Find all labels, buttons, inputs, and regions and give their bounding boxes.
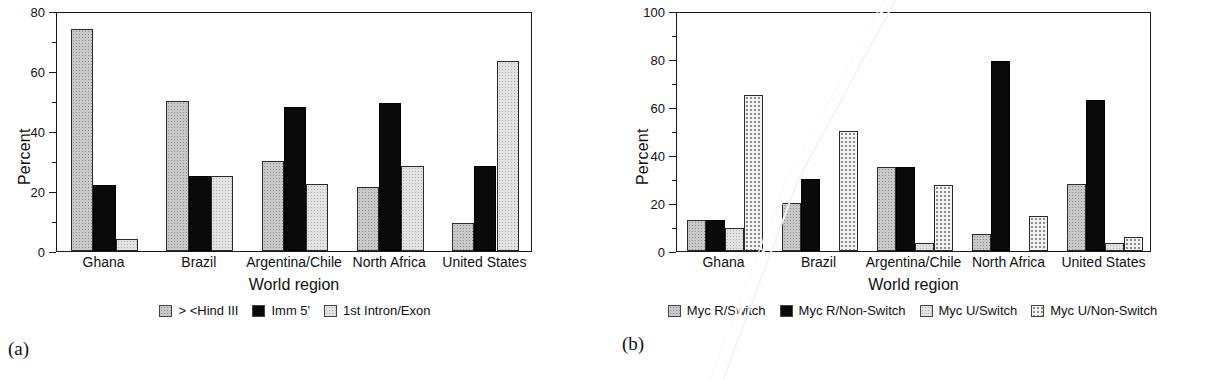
bar (211, 176, 233, 251)
legend-item: Myc R/Non-Switch (780, 303, 906, 318)
bar (972, 234, 991, 251)
x-axis-tick-label: Argentina/Chile (246, 254, 342, 270)
y-axis-tick-label: 40 (610, 149, 665, 164)
y-axis-tick-label: 0 (0, 245, 45, 260)
bar (166, 101, 188, 251)
legend-swatch-icon (252, 305, 265, 317)
legend-swatch-icon (780, 305, 793, 317)
bar (497, 61, 519, 252)
y-axis-tick-label: 60 (0, 65, 45, 80)
bar (725, 228, 744, 251)
bar (934, 185, 953, 251)
legend-item: Myc U/Switch (920, 303, 1018, 318)
legend-swatch-icon (920, 305, 933, 317)
bar (1105, 243, 1124, 251)
bar (93, 185, 115, 251)
plot-area-b (676, 12, 1151, 252)
y-axis-tick-label: 40 (0, 125, 45, 140)
y-axis-minor-tick (672, 84, 676, 85)
bar (452, 223, 474, 252)
y-axis-minor-tick (52, 222, 56, 223)
legend-swatch-icon (324, 305, 337, 317)
x-axis-title: World region (56, 276, 532, 294)
bar (284, 107, 306, 251)
y-axis-minor-tick (672, 132, 676, 133)
y-axis-minor-tick (672, 36, 676, 37)
legend-item: Myc R/Switch (668, 303, 766, 318)
bar (782, 203, 801, 251)
bar (474, 166, 496, 252)
bar (401, 166, 423, 252)
legend-b: Myc R/SwitchMyc R/Non-SwitchMyc U/Switch… (614, 303, 1211, 318)
plot-area-a (56, 12, 532, 252)
legend-label: > <Hind III (178, 303, 238, 318)
x-axis-tick-label: Ghana (83, 254, 125, 270)
x-axis-tick-label: Brazil (181, 254, 216, 270)
legend-a: > <Hind IIIImm 5'1st Intron/Exon (60, 303, 530, 318)
legend-label: Myc R/Non-Switch (799, 303, 906, 318)
y-axis-major-tick (669, 252, 676, 253)
y-axis-major-tick (49, 252, 56, 253)
x-axis-tick-label: North Africa (972, 254, 1045, 270)
legend-label: 1st Intron/Exon (343, 303, 430, 318)
x-axis-tick-label: United States (442, 254, 526, 270)
y-axis-tick-label: 20 (610, 197, 665, 212)
y-axis-minor-tick (672, 180, 676, 181)
y-axis-tick-label: 80 (0, 5, 45, 20)
panel-b: Percent 020406080100 GhanaBrazilArgentin… (610, 0, 1215, 365)
bar (357, 187, 379, 252)
y-axis-major-tick (49, 72, 56, 73)
bar (839, 131, 858, 251)
y-axis-tick-label: 0 (610, 245, 665, 260)
bar (687, 220, 706, 251)
y-axis-minor-tick (52, 42, 56, 43)
legend-label: Myc U/Switch (939, 303, 1018, 318)
legend-label: Myc R/Switch (687, 303, 766, 318)
bar (1067, 184, 1086, 251)
legend-item: Myc U/Non-Switch (1031, 303, 1157, 318)
panel-a: Percent 020406080 GhanaBrazilArgentina/C… (0, 0, 600, 365)
legend-swatch-icon (668, 305, 681, 317)
bar (1124, 237, 1143, 251)
y-axis-tick-label: 20 (0, 185, 45, 200)
y-axis-major-tick (669, 12, 676, 13)
y-axis-major-tick (669, 108, 676, 109)
x-axis-tick-label: United States (1061, 254, 1145, 270)
bar (116, 239, 138, 251)
y-axis-minor-tick (672, 228, 676, 229)
x-axis-title: World region (676, 276, 1151, 294)
legend-swatch-icon (1031, 305, 1044, 317)
y-axis-tick-label: 100 (610, 5, 665, 20)
x-axis-tick-label: Ghana (702, 254, 744, 270)
bar (896, 167, 915, 251)
bar (991, 61, 1010, 251)
bars-layer-b (677, 13, 1150, 251)
y-axis-major-tick (669, 60, 676, 61)
bars-layer-a (57, 13, 531, 251)
bar (306, 184, 328, 252)
y-axis-major-tick (669, 204, 676, 205)
bar (801, 179, 820, 251)
legend-item: > <Hind III (159, 303, 238, 318)
bar (706, 220, 725, 251)
y-axis-major-tick (49, 192, 56, 193)
x-axis-tick-label: Argentina/Chile (866, 254, 962, 270)
y-axis-tick-label: 60 (610, 101, 665, 116)
panel-label-a: (a) (8, 338, 29, 360)
legend-label: Myc U/Non-Switch (1050, 303, 1157, 318)
bar (877, 167, 896, 251)
legend-item: Imm 5' (252, 303, 310, 318)
panel-label-b: (b) (622, 333, 644, 355)
y-axis-major-tick (669, 156, 676, 157)
y-axis-minor-tick (52, 162, 56, 163)
legend-item: 1st Intron/Exon (324, 303, 430, 318)
bar (71, 29, 93, 251)
bar (744, 95, 763, 251)
bar (189, 176, 211, 251)
x-axis-tick-label: North Africa (353, 254, 426, 270)
bar (1086, 100, 1105, 251)
bar (379, 103, 401, 252)
bar (1029, 216, 1048, 251)
x-axis-tick-label: Brazil (801, 254, 836, 270)
